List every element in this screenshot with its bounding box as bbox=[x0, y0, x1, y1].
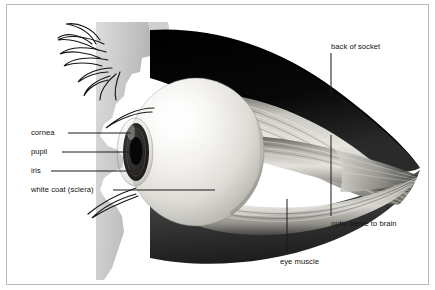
label-cornea: cornea bbox=[31, 128, 55, 137]
label-iris: iris bbox=[31, 166, 41, 175]
label-sclera: white coat (sclera) bbox=[31, 185, 94, 194]
label-eye-muscle: eye muscle bbox=[280, 257, 319, 266]
label-optic-nerve: optic nerve to brain bbox=[331, 219, 397, 228]
pupil-shape bbox=[130, 137, 143, 165]
eye-anatomy-figure: cornea pupil iris white coat (sclera) ba… bbox=[0, 0, 435, 290]
label-pupil: pupil bbox=[31, 147, 47, 156]
label-back-of-socket: back of socket bbox=[331, 42, 380, 51]
